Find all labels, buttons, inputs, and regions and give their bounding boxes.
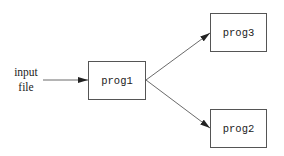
- node-prog1: prog1: [89, 62, 146, 100]
- node-prog1-label: prog1: [101, 75, 133, 87]
- pipeline-diagram: input file prog1 prog3 prog2: [0, 0, 284, 156]
- input-label-line2: file: [18, 81, 33, 93]
- input-label-line1: input: [14, 66, 38, 79]
- node-prog3: prog3: [211, 14, 267, 52]
- node-prog2-label: prog2: [223, 123, 255, 135]
- edge-prog1-to-prog2: [146, 80, 210, 128]
- edge-prog1-to-prog3: [146, 33, 210, 80]
- node-prog3-label: prog3: [223, 27, 255, 39]
- node-prog2: prog2: [211, 110, 267, 148]
